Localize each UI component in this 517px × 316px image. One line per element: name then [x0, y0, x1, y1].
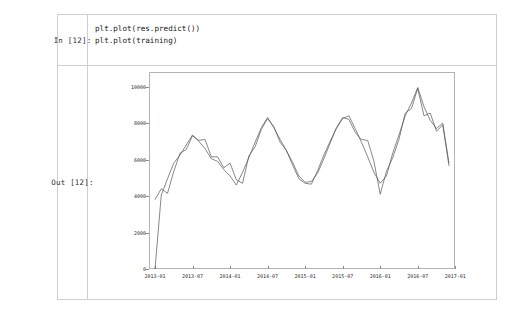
x-tick-label: 2014-01 — [220, 273, 241, 279]
y-tick-mark — [146, 269, 149, 270]
output-cell: Out [12]: 0200040006000800010000 2013-01… — [58, 66, 496, 299]
code-editor[interactable]: plt.plot(res.predict()) plt.plot(trainin… — [88, 15, 496, 46]
x-tick-label: 2013-07 — [182, 273, 203, 279]
output-prompt-label: Out [12]: — [58, 66, 88, 299]
input-prompt-label: In [12]: — [58, 15, 88, 65]
figure-canvas: 0200040006000800010000 2013-012013-07201… — [88, 66, 496, 299]
x-tick-label: 2016-01 — [370, 273, 391, 279]
y-tick-label: 6000 — [134, 157, 146, 163]
x-tick-label: 2015-01 — [295, 273, 316, 279]
x-tick-label: 2016-07 — [407, 273, 428, 279]
y-tick-mark — [146, 160, 149, 161]
y-tick-mark — [146, 87, 149, 88]
input-cell-body[interactable]: plt.plot(res.predict()) plt.plot(trainin… — [88, 15, 496, 65]
x-tick-label: 2017-01 — [445, 273, 466, 279]
code-line: plt.plot(training) — [95, 35, 496, 47]
x-tick-mark — [455, 266, 456, 269]
code-line: plt.plot(res.predict()) — [95, 23, 496, 35]
x-tick-label: 2014-07 — [257, 273, 278, 279]
output-cell-body: 0200040006000800010000 2013-012013-07201… — [88, 66, 496, 299]
y-tick-label: 2000 — [134, 230, 146, 236]
y-tick-label: 10000 — [131, 84, 146, 90]
y-tick-mark — [146, 123, 149, 124]
x-tick-label: 2015-07 — [332, 273, 353, 279]
y-tick-label: 4000 — [134, 193, 146, 199]
x-tick-label: 2013-01 — [144, 273, 165, 279]
y-axis-ticks: 0200040006000800010000 — [118, 66, 146, 299]
matplotlib-figure: 0200040006000800010000 2013-012013-07201… — [88, 66, 496, 299]
plot-lines — [149, 72, 455, 269]
series-line — [155, 88, 449, 199]
y-tick-label: 8000 — [134, 120, 146, 126]
input-cell[interactable]: In [12]: plt.plot(res.predict()) plt.plo… — [58, 15, 496, 66]
notebook-container: In [12]: plt.plot(res.predict()) plt.plo… — [57, 14, 497, 300]
y-tick-mark — [146, 233, 149, 234]
y-tick-mark — [146, 196, 149, 197]
